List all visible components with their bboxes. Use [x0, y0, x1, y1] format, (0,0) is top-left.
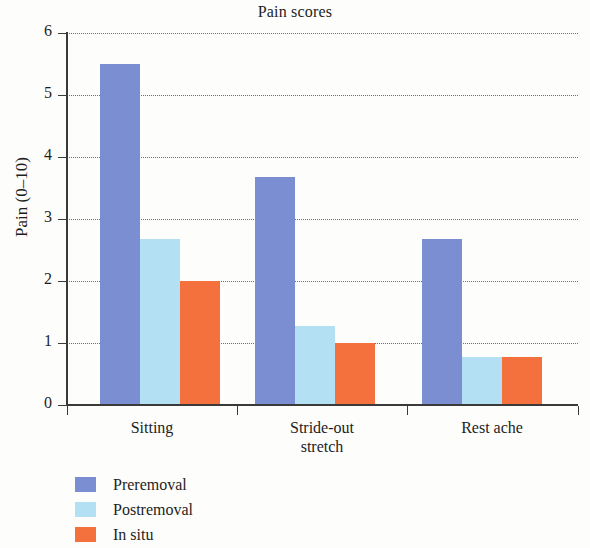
gridline: [67, 157, 578, 159]
bar: [462, 357, 502, 405]
chart-legend: PreremovalPostremovalIn situ: [75, 472, 193, 547]
legend-swatch: [75, 477, 96, 492]
y-axis-tick-label: 3: [20, 208, 52, 226]
plot-area: [67, 33, 578, 405]
y-axis-tick: [58, 219, 67, 220]
bar: [335, 343, 375, 405]
y-axis-tick: [58, 281, 67, 282]
legend-label: In situ: [113, 526, 153, 544]
y-axis-tick: [58, 95, 67, 96]
x-axis-tick: [67, 406, 68, 415]
bar: [502, 357, 542, 405]
y-axis-tick: [58, 405, 67, 406]
bar: [295, 326, 335, 405]
y-axis-tick: [58, 157, 67, 158]
y-axis-tick-label: 4: [20, 146, 52, 164]
legend-item[interactable]: Postremoval: [75, 497, 193, 522]
legend-item[interactable]: In situ: [75, 522, 193, 547]
chart-figure: Pain scores Pain (0–10) 0123456 SittingS…: [0, 0, 590, 548]
x-axis-tick-label-line: Rest ache: [412, 418, 572, 437]
chart-title: Pain scores: [0, 3, 590, 21]
y-axis-tick: [58, 33, 67, 34]
bar: [180, 281, 220, 405]
legend-label: Preremoval: [113, 476, 187, 494]
y-axis-tick-label: 2: [20, 270, 52, 288]
x-axis-tick: [578, 406, 579, 415]
y-axis-tick-label: 0: [20, 394, 52, 412]
y-axis-tick-label: 1: [20, 332, 52, 350]
y-axis-tick-label: 5: [20, 84, 52, 102]
y-axis-label: Pain (0–10): [12, 97, 32, 297]
x-axis-tick-label-line: stretch: [242, 437, 402, 456]
bar: [140, 239, 180, 405]
bar: [255, 177, 295, 405]
bar: [100, 64, 140, 405]
gridline: [67, 33, 578, 35]
x-axis-tick-label: Rest ache: [412, 418, 572, 437]
x-axis-tick-label: Sitting: [72, 418, 232, 437]
bar: [422, 239, 462, 405]
legend-swatch: [75, 527, 96, 542]
x-axis-spine: [66, 404, 578, 406]
gridline: [67, 219, 578, 221]
legend-label: Postremoval: [113, 501, 193, 519]
legend-item[interactable]: Preremoval: [75, 472, 193, 497]
x-axis-tick: [407, 406, 408, 415]
y-axis-tick: [58, 343, 67, 344]
y-axis-tick-label: 6: [20, 22, 52, 40]
x-axis-tick-label-line: Sitting: [72, 418, 232, 437]
x-axis-tick-label: Stride-outstretch: [242, 418, 402, 456]
gridline: [67, 95, 578, 97]
legend-swatch: [75, 502, 96, 517]
x-axis-tick-label-line: Stride-out: [242, 418, 402, 437]
x-axis-tick: [237, 406, 238, 415]
